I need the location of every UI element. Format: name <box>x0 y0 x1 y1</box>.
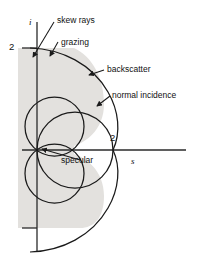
annotation-normal-incidence: normal incidence <box>112 91 176 100</box>
axis-label-s: s <box>131 157 135 166</box>
annotation-grazing: grazing <box>61 38 89 47</box>
shaded-region-lobes <box>37 48 104 228</box>
tick-label-i-2: 2 <box>9 42 14 52</box>
annotation-backscatter: backscatter <box>107 65 150 74</box>
axis-label-i: i <box>29 18 32 27</box>
tick-label-s-2: 2 <box>110 133 115 143</box>
diagram-canvas <box>0 0 197 259</box>
annotation-skew-rays: skew rays <box>57 16 95 25</box>
scattering-geometry-figure: i 2 2 s skew rays grazing backscatter no… <box>0 0 197 259</box>
annotation-specular: specular <box>61 156 93 165</box>
